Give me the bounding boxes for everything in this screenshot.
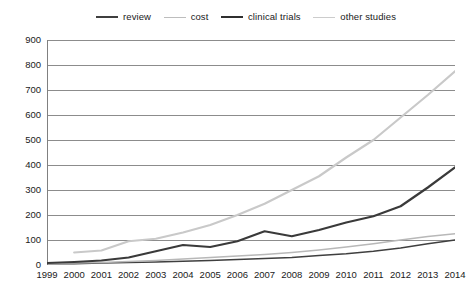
legend-item-cost: cost: [164, 12, 209, 22]
series-line-other-studies: [74, 71, 455, 252]
x-axis-tick-label: 2000: [64, 270, 85, 280]
x-axis-tick-label: 2001: [91, 270, 112, 280]
legend-label-review: review: [123, 12, 151, 22]
y-axis-tick-label: 900: [25, 35, 41, 45]
x-axis-tick-label: 2008: [281, 270, 302, 280]
x-axis-labels: 1999200020012002200320042005200620072008…: [47, 270, 455, 286]
legend-swatch-cost: [164, 17, 186, 18]
y-axis-tick-label: 400: [25, 160, 41, 170]
y-axis-tick-label: 100: [25, 235, 41, 245]
legend-label-other-studies: other studies: [340, 12, 396, 22]
legend-label-clinical-trials: clinical trials: [248, 12, 301, 22]
y-axis-tick-label: 300: [25, 185, 41, 195]
y-axis-tick-label: 800: [25, 60, 41, 70]
y-axis-tick-label: 500: [25, 135, 41, 145]
x-axis-tick-label: 2003: [145, 270, 166, 280]
legend-item-other-studies: other studies: [313, 12, 396, 22]
y-axis-labels: 0100200300400500600700800900: [0, 40, 41, 265]
x-axis-tick-label: 2013: [417, 270, 438, 280]
plot-svg: [47, 40, 455, 265]
x-axis-tick-label: 2002: [118, 270, 139, 280]
legend-label-cost: cost: [191, 12, 209, 22]
x-axis-tick-label: 2007: [254, 270, 275, 280]
legend-swatch-other-studies: [313, 17, 335, 18]
x-axis-tick-label: 1999: [36, 270, 57, 280]
x-axis-tick-label: 2011: [363, 270, 383, 280]
x-axis-tick-label: 2012: [390, 270, 411, 280]
y-axis-tick-label: 200: [25, 210, 41, 220]
legend-swatch-clinical-trials: [221, 16, 243, 18]
y-axis-tick-label: 600: [25, 110, 41, 120]
x-axis-tick-label: 2006: [227, 270, 248, 280]
line-chart: review cost clinical trials other studie…: [0, 0, 466, 295]
legend-swatch-review: [96, 16, 118, 18]
chart-legend: review cost clinical trials other studie…: [96, 9, 396, 25]
legend-item-review: review: [96, 12, 151, 22]
x-axis-tick-label: 2014: [444, 270, 465, 280]
legend-item-clinical-trials: clinical trials: [221, 12, 301, 22]
x-axis-tick-label: 2009: [308, 270, 329, 280]
y-axis-tick-label: 700: [25, 85, 41, 95]
x-axis-tick-label: 2004: [172, 270, 193, 280]
x-axis-tick-label: 2005: [200, 270, 221, 280]
x-axis-tick-label: 2010: [336, 270, 357, 280]
plot-area: [47, 40, 455, 265]
